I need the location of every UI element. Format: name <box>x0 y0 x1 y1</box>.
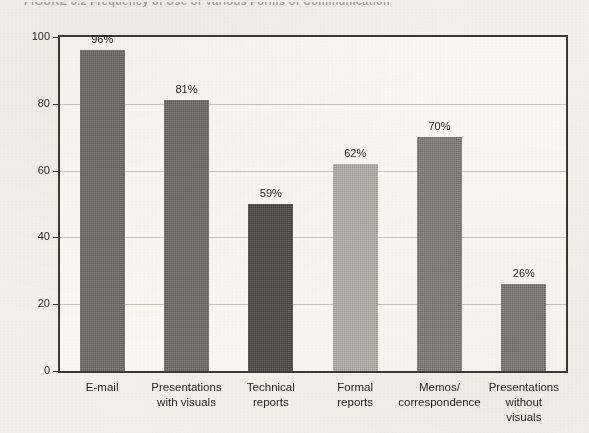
bar <box>417 137 462 371</box>
bar-chart: FIGURE 3.2 Frequency of Use of Various F… <box>0 0 589 433</box>
bar <box>501 284 546 371</box>
bar <box>164 100 209 371</box>
bar-value-label: 26% <box>513 267 535 279</box>
gridline <box>60 104 566 105</box>
bar-texture <box>248 204 293 371</box>
bar-value-label: 81% <box>175 83 197 95</box>
bar-value-label: 62% <box>344 147 366 159</box>
bar <box>248 204 293 371</box>
x-category-label: Presentations without visuals <box>475 380 573 425</box>
bar <box>80 50 125 371</box>
y-tick-label: 40 <box>14 230 50 242</box>
bar-texture <box>164 100 209 371</box>
bar-texture <box>501 284 546 371</box>
y-tick-label: 100 <box>14 30 50 42</box>
y-tick-label: 0 <box>14 364 50 376</box>
bar-value-label: 70% <box>428 120 450 132</box>
y-tick-label: 80 <box>14 97 50 109</box>
bar-texture <box>80 50 125 371</box>
bar <box>333 164 378 371</box>
bar-value-label: 59% <box>260 187 282 199</box>
gridline <box>60 171 566 172</box>
gridline <box>60 304 566 305</box>
y-tick-label: 20 <box>14 297 50 309</box>
bar-texture <box>417 137 462 371</box>
y-tick-label: 60 <box>14 164 50 176</box>
bar-value-label: 96% <box>91 33 113 45</box>
bar-texture <box>333 164 378 371</box>
plot-area <box>58 35 568 373</box>
figure-title: FIGURE 3.2 Frequency of Use of Various F… <box>24 0 390 7</box>
gridline <box>60 237 566 238</box>
